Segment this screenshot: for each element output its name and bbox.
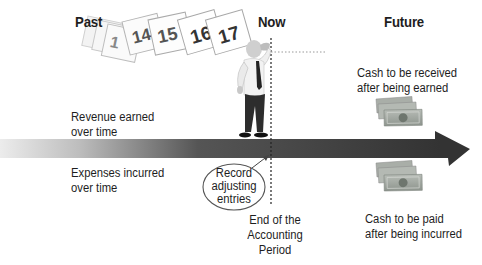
cash-bills-icon	[376, 96, 422, 126]
heading-past: Past	[75, 13, 102, 30]
cash-bills-icon	[376, 160, 422, 191]
calendar-pages-icon: 1 14 15 16 17	[82, 10, 252, 63]
businessman-figure-icon	[237, 40, 271, 138]
heading-future: Future	[384, 13, 424, 30]
period-end-label: End of the Accounting Period	[244, 213, 307, 258]
svg-text:15: 15	[156, 23, 180, 47]
expenses-label: Expenses incurred over time	[71, 166, 164, 196]
revenue-label: Revenue earned over time	[71, 110, 154, 140]
heading-now: Now	[258, 13, 285, 30]
cash-paid-label: Cash to be paid after being incurred	[365, 212, 462, 242]
cash-received-label: Cash to be received after being earned	[357, 66, 457, 96]
callout-text: Record adjusting entries	[209, 167, 259, 206]
